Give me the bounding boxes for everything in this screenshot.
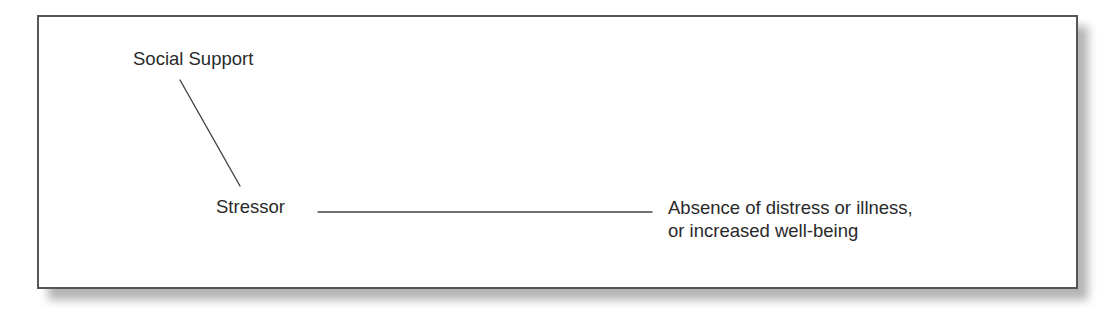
- node-social-support: Social Support: [133, 47, 253, 70]
- node-outcome: Absence of distress or illness, or incre…: [668, 196, 913, 242]
- outcome-line-2: or increased well-being: [668, 219, 913, 242]
- outcome-line-1: Absence of distress or illness,: [668, 196, 913, 219]
- node-stressor: Stressor: [216, 195, 285, 218]
